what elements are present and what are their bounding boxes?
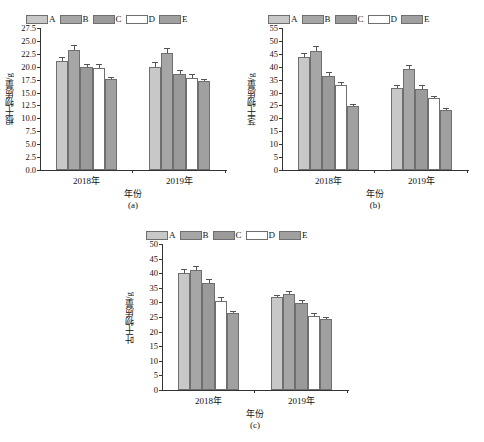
plot-area-a: 0.02.55.07.510.012.515.017.520.022.525.0… [0,2,242,212]
y-tick-mark [37,54,40,55]
y-tick-mark [279,28,282,29]
y-tick-label: 50 [126,240,158,249]
error-bar-cap [274,295,280,296]
plot-area-c: 05101520253035404550叶干物质量/g2018年2019年年份(… [118,214,366,442]
legend-swatch-c [213,231,235,240]
y-tick-label: 0 [246,166,278,175]
legend-item-d: D [368,15,402,24]
bar-c-g1 [322,76,334,170]
y-tick-mark [37,41,40,42]
chart-panel-a: 0.02.55.07.510.012.515.017.520.022.525.0… [0,2,242,212]
y-tick-mark [279,41,282,42]
bar-c-g1 [80,67,92,170]
x-tick-mark [347,390,348,393]
bar-a-g2 [391,88,403,170]
chart-panel-c: 05101520253035404550叶干物质量/g2018年2019年年份(… [118,214,366,442]
legend-item-c: C [335,15,368,24]
legend-swatch-b [180,231,202,240]
y-tick-label: 0.0 [4,166,36,175]
error-bar-cap [286,291,292,292]
legend-label-c: C [357,15,368,24]
legend-label-b: B [82,15,93,24]
y-tick-mark [37,67,40,68]
legend-item-e: E [279,231,312,240]
y-tick-mark [159,346,162,347]
error-bar-cap [350,104,356,105]
error-bar-cap [443,108,449,109]
error-bar-cap [71,45,77,46]
legend-swatch-d [368,15,390,24]
y-tick-mark [279,80,282,81]
x-tick-mark [225,170,226,173]
legend-swatch-b [302,15,324,24]
y-tick-mark [37,144,40,145]
x-tick-label: 2019年 [166,174,193,187]
legend-swatch-a [146,231,168,240]
legend-item-a: A [268,15,302,24]
x-tick-label: 2018年 [315,174,342,187]
y-tick-mark [37,131,40,132]
legend-label-a: A [168,231,180,240]
legend-item-a: A [146,231,180,240]
y-tick-mark [37,170,40,171]
legend-swatch-e [279,231,301,240]
error-bar-cap [394,85,400,86]
x-axis-title: 年份 [124,187,142,200]
y-tick-label: 50 [246,37,278,46]
legend-item-b: B [302,15,335,24]
y-tick-mark [279,67,282,68]
legend-item-a: A [26,15,60,24]
bar-e-g1 [347,106,359,170]
error-bar-cap [152,62,158,63]
bar-b-g2 [161,53,173,170]
y-tick-mark [159,361,162,362]
y-tick-label: 27.5 [4,24,36,33]
legend-swatch-a [268,15,290,24]
error-bar-cap [326,72,332,73]
y-tick-mark [159,375,162,376]
bar-d-g1 [215,301,227,390]
y-tick-label: 2.5 [4,153,36,162]
y-tick-mark [159,332,162,333]
x-tick-mark [467,170,468,173]
error-bar-cap [96,64,102,65]
legend-item-b: B [60,15,93,24]
error-bar-cap [431,96,437,97]
error-bar-cap [419,85,425,86]
y-tick-mark [279,54,282,55]
legend-swatch-d [246,231,268,240]
error-bar-cap [313,46,319,47]
y-tick-label: 25.0 [4,37,36,46]
legend-swatch-a [26,15,48,24]
legend-label-a: A [290,15,302,24]
error-bar-cap [406,65,412,66]
x-axis-title: 年份 [366,187,384,200]
error-bar-cap [177,70,183,71]
bar-c-g2 [173,74,185,170]
legend-label-a: A [48,15,60,24]
error-bar-cap [311,313,317,314]
bar-a-g1 [178,273,190,390]
legend-swatch-c [335,15,357,24]
bar-b-g2 [403,69,415,170]
legend-label-b: B [324,15,335,24]
error-bar-cap [193,266,199,267]
error-bar-cap [84,64,90,65]
x-tick-mark [374,170,375,173]
error-bar-cap [164,48,170,49]
legend-swatch-d [126,15,148,24]
bar-a-g2 [149,67,161,170]
panel-label: (b) [370,200,381,210]
y-tick-mark [279,144,282,145]
bar-b-g2 [283,294,295,390]
bar-e-g2 [320,319,332,390]
legend-swatch-e [159,15,181,24]
y-tick-mark [159,259,162,260]
y-axis-title: 叶干物质量/g [122,262,135,373]
x-tick-mark [254,390,255,393]
y-tick-mark [159,390,162,391]
error-bar-cap [218,297,224,298]
y-tick-mark [37,157,40,158]
error-bar-cap [201,79,207,80]
bar-c-g2 [415,89,427,170]
